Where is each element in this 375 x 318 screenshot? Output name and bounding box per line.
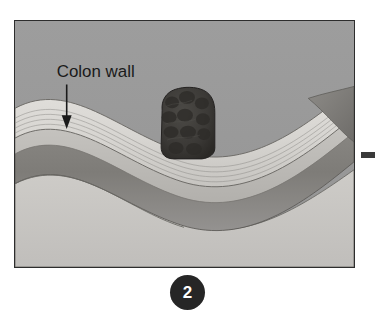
panel-number-text: 2 (183, 284, 192, 301)
panel-number-badge: 2 (170, 275, 205, 310)
colon-wall-label: Colon wall (57, 62, 135, 81)
colon-wall-illustration: Colon wall (15, 21, 354, 267)
tumor-mass (161, 87, 215, 159)
figure-root: Colon wall 2 (0, 0, 375, 318)
illustration-frame: Colon wall (14, 20, 355, 268)
right-edge-dash-marker (361, 152, 375, 158)
